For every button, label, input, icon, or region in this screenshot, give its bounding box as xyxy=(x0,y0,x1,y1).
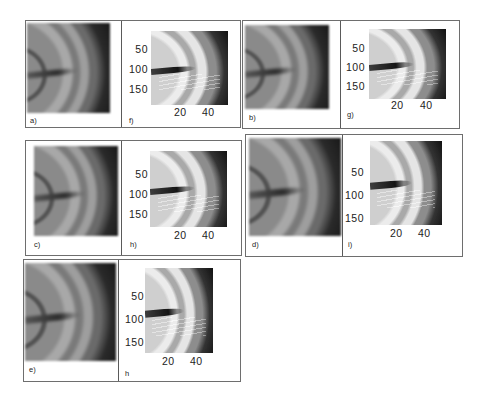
xtick-40: 40 xyxy=(418,228,431,238)
image-i-enhanced xyxy=(370,141,442,225)
image-f-enhanced xyxy=(151,31,228,105)
xtick-40: 40 xyxy=(190,356,203,366)
xtick-20: 20 xyxy=(391,100,404,110)
ytick-50: 50 xyxy=(335,43,365,53)
panel-label-g: g) xyxy=(347,110,354,119)
panel-label-d: d) xyxy=(252,240,259,249)
ytick-50: 50 xyxy=(118,44,148,54)
xtick-20: 20 xyxy=(174,107,187,117)
panel-divider xyxy=(340,21,341,128)
panel-divider xyxy=(121,21,122,127)
panel-label-f: f) xyxy=(129,116,134,125)
image-c-original xyxy=(34,146,118,236)
image-h2-enhanced xyxy=(145,268,213,353)
ytick-50: 50 xyxy=(118,169,148,179)
ytick-150: 150 xyxy=(118,84,148,94)
panel-label-a: a) xyxy=(30,116,37,125)
image-h-enhanced xyxy=(150,151,227,227)
panel-group-e-h: e) 50 100 150 20 40 h xyxy=(23,259,241,382)
ytick-100: 100 xyxy=(118,189,148,199)
xtick-20: 20 xyxy=(174,230,187,240)
panel-group-b-g: b) 50 100 150 20 40 g) xyxy=(242,20,460,129)
ytick-150: 150 xyxy=(334,213,364,223)
ytick-50: 50 xyxy=(334,167,364,177)
image-a-original xyxy=(27,23,110,113)
panel-label-e: e) xyxy=(29,365,36,374)
image-d-original xyxy=(249,138,341,236)
panel-label-c: c) xyxy=(34,240,40,249)
image-e-original xyxy=(25,263,116,361)
ytick-100: 100 xyxy=(334,190,364,200)
image-b-original xyxy=(245,25,329,109)
xtick-40: 40 xyxy=(202,230,215,240)
panel-group-c-h: c) 50 100 150 20 40 h) xyxy=(25,140,242,256)
ytick-100: 100 xyxy=(114,314,144,324)
panel-label-h2: h xyxy=(125,369,129,378)
panel-group-d-i: d) 50 100 150 20 40 i) xyxy=(245,134,463,257)
xtick-40: 40 xyxy=(420,100,433,110)
panel-label-b: b) xyxy=(249,113,256,122)
xtick-20: 20 xyxy=(390,228,403,238)
ytick-100: 100 xyxy=(335,62,365,72)
ytick-150: 150 xyxy=(114,337,144,347)
panel-label-i: i) xyxy=(348,240,352,249)
ytick-150: 150 xyxy=(118,209,148,219)
panel-group-a-f: a) 50 100 150 20 40 f) xyxy=(25,20,241,128)
ytick-100: 100 xyxy=(118,64,148,74)
xtick-20: 20 xyxy=(162,356,175,366)
xtick-40: 40 xyxy=(202,107,215,117)
image-g-enhanced xyxy=(369,29,446,99)
ytick-50: 50 xyxy=(114,291,144,301)
ytick-150: 150 xyxy=(335,81,365,91)
panel-label-h: h) xyxy=(130,240,137,249)
